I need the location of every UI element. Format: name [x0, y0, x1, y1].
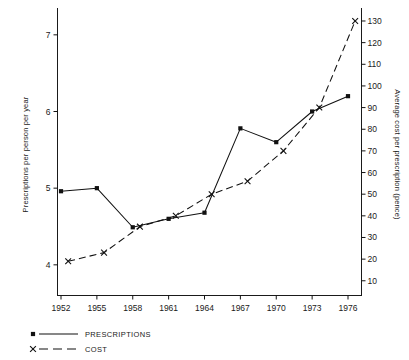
data-point-marker — [31, 332, 35, 336]
y-axis-right-tick-label: 120 — [368, 38, 394, 48]
y-axis-right-tick-label: 50 — [368, 189, 394, 199]
x-axis-tick-label: 1955 — [77, 303, 117, 313]
y-axis-left-title: Prescriptions per person per year — [21, 70, 30, 240]
series-cost-line — [65, 18, 358, 264]
data-point-marker — [95, 186, 99, 190]
y-axis-right-tick-label: 30 — [368, 232, 394, 242]
chart-figure: Prescriptions per person per year Averag… — [0, 0, 409, 360]
data-point-marker — [131, 225, 135, 229]
legend-item-prescriptions-label: PRESCRIPTIONS — [85, 330, 151, 339]
y-axis-right-tick-label: 80 — [368, 124, 394, 134]
legend-item-cost-label: COST — [85, 345, 107, 354]
data-point-marker — [59, 189, 63, 193]
y-axis-left-tick-label: 7 — [29, 30, 51, 40]
x-axis-tick-label: 1961 — [149, 303, 189, 313]
y-axis-right-tick-label: 130 — [368, 16, 394, 26]
data-point-marker — [274, 140, 278, 144]
x-axis-tick-label: 1967 — [220, 303, 260, 313]
y-axis-left-ticks — [54, 35, 58, 265]
x-axis-tick-label: 1973 — [292, 303, 332, 313]
y-axis-left-tick-label: 5 — [29, 183, 51, 193]
y-axis-right-tick-label: 40 — [368, 211, 394, 221]
x-axis-tick-label: 1976 — [328, 303, 368, 313]
x-axis-tick-label: 1958 — [113, 303, 153, 313]
data-point-marker — [310, 109, 314, 113]
y-axis-right-tick-label: 20 — [368, 254, 394, 264]
y-axis-right-title: Average cost per prescription (pence) — [393, 70, 402, 240]
series-prescriptions-line — [59, 94, 350, 229]
y-axis-right-tick-label: 110 — [368, 59, 394, 69]
y-axis-right-tick-label: 70 — [368, 146, 394, 156]
y-axis-right-tick-label: 60 — [368, 168, 394, 178]
y-axis-right-ticks — [362, 21, 366, 281]
data-point-marker — [202, 211, 206, 215]
x-axis-ticks — [61, 296, 348, 300]
data-point-marker — [346, 94, 350, 98]
y-axis-right-tick-label: 100 — [368, 81, 394, 91]
x-axis-tick-label: 1970 — [256, 303, 296, 313]
x-axis-tick-label: 1952 — [41, 303, 81, 313]
y-axis-right-tick-label: 10 — [368, 276, 394, 286]
x-axis-tick-label: 1964 — [185, 303, 225, 313]
y-axis-left-tick-label: 6 — [29, 107, 51, 117]
y-axis-left-tick-label: 4 — [29, 260, 51, 270]
y-axis-right-tick-label: 90 — [368, 103, 394, 113]
data-point-marker — [238, 126, 242, 130]
data-point-marker — [167, 217, 171, 221]
legend-glyphs — [30, 332, 78, 352]
